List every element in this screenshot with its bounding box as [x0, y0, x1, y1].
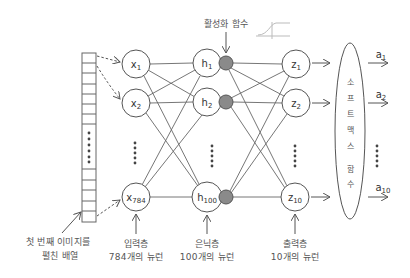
array-ellipsis-dots [88, 132, 91, 164]
hidden-output-connections [229, 63, 289, 197]
output-to-softmax-arrows [311, 63, 330, 197]
array-to-input-arrows [97, 56, 120, 216]
softmax-label-char: 맥 [347, 124, 354, 135]
output-layer-nodes [281, 50, 310, 211]
hidden-node-label-h100: h100 [197, 192, 217, 205]
caption-arrows [62, 212, 295, 234]
softmax-label-char: 수 [347, 178, 354, 189]
softmax-output-label-a1: a1 [376, 49, 387, 62]
input-node-label-x1: x1 [131, 59, 141, 72]
softmax-label-char: 프 [347, 92, 354, 103]
activation-dot [219, 95, 233, 109]
softmax-label-char: 트 [347, 108, 354, 119]
input-layer-caption: 입력층 [124, 237, 149, 250]
hidden-node-label-h1: h1 [202, 58, 213, 71]
output-node-label-z2: z2 [291, 98, 301, 111]
hidden-layer-nodes [192, 49, 222, 212]
input-node-label-x784: x784 [126, 192, 145, 205]
output-layer-neuron-count: 10개의 뉴런 [271, 250, 319, 263]
input-layer-neuron-count: 784개의 뉴런 [109, 250, 163, 263]
hidden-node-label-h2: h2 [202, 97, 213, 110]
softmax-output-label-a2: a2 [376, 89, 387, 102]
softmax-label-char: 소 [347, 76, 354, 87]
activation-dot [219, 190, 233, 204]
output-node-label-z10: z10 [288, 192, 302, 205]
softmax-output-label-a10: a10 [375, 182, 390, 195]
activation-function-dots [219, 56, 233, 204]
neural-network-diagram: x1 x2 x784 h1 h2 h100 z1 z2 z10 a1 a2 a1… [0, 0, 410, 278]
input-layer-nodes [122, 50, 150, 211]
hidden-layer-neuron-count: 100개의 뉴런 [180, 250, 234, 263]
input-hidden-connections [142, 63, 202, 197]
softmax-label-char: 함 [347, 163, 354, 174]
activation-dot [219, 56, 233, 70]
output-node-label-z1: z1 [291, 59, 301, 72]
softmax-label-char: 스 [347, 140, 354, 151]
activation-function-label: 활성화 함수 [204, 17, 249, 30]
input-array-caption-line2: 펼친 배열 [42, 249, 78, 262]
softmax-output-arrows [368, 63, 388, 197]
input-node-label-x2: x2 [131, 98, 141, 111]
hidden-layer-caption: 은닉층 [195, 237, 220, 250]
flattened-input-array [82, 53, 96, 222]
output-layer-caption: 출력층 [283, 237, 308, 250]
sigmoid-curve-icon [256, 22, 290, 39]
input-array-caption-line1: 첫 번째 이미지를 [26, 235, 90, 248]
